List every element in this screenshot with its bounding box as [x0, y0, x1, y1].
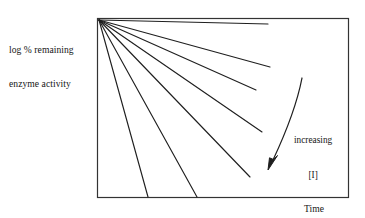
y-axis-label-line-1: log % remaining [9, 44, 74, 55]
arrow-head [268, 156, 278, 171]
inactivation-line-7 [99, 20, 148, 197]
y-axis-label-line-2: enzyme activity [9, 78, 74, 89]
inactivation-line-5 [99, 20, 250, 177]
inactivation-line-group [99, 20, 270, 197]
figure-root: log % remaining enzyme activity Time inc… [0, 0, 365, 218]
inactivation-line-3 [99, 20, 256, 90]
inactivation-line-2 [99, 20, 270, 67]
inactivation-line-4 [99, 20, 262, 132]
inactivation-line-1 [99, 20, 268, 24]
increasing-inhibitor-annotation: increasing [I] [294, 112, 332, 205]
annotation-line-1: increasing [294, 135, 332, 147]
annotation-line-2: [I] [294, 170, 332, 182]
inactivation-line-6 [99, 20, 197, 197]
y-axis-label: log % remaining enzyme activity [9, 21, 74, 112]
